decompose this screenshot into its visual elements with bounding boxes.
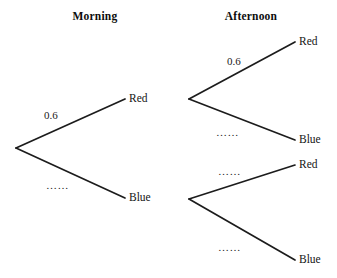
node-label-morning-red: Red: [129, 92, 148, 104]
branch-label-afternoon-red-red: 0.6: [227, 55, 241, 67]
branch-morning-red: [16, 99, 125, 148]
node-label-morning-blue: Blue: [129, 191, 151, 203]
probability-tree-figure: Morning Afternoon 0.6 …… Red Blue 0.6 ………: [0, 0, 337, 278]
branch-label-afternoon-red-blue: ……: [216, 126, 239, 138]
node-label-afternoon-red-blue: Blue: [299, 133, 321, 145]
branch-label-afternoon-blue-blue: ……: [218, 241, 241, 253]
node-label-afternoon-blue-blue: Blue: [299, 253, 321, 265]
branch-label-morning-red: 0.6: [44, 109, 58, 121]
branch-label-afternoon-blue-red: ……: [218, 165, 241, 177]
branch-label-morning-blue: ……: [46, 179, 69, 191]
node-label-afternoon-blue-red: Red: [299, 158, 318, 170]
node-label-afternoon-red-red: Red: [299, 35, 318, 47]
branch-afternoon-blue-red: [189, 165, 295, 199]
stage-header-morning: Morning: [45, 10, 145, 22]
branch-afternoon-red-red: [189, 42, 295, 99]
stage-header-afternoon: Afternoon: [201, 10, 301, 22]
branch-afternoon-red-blue: [189, 99, 295, 140]
branch-morning-blue: [16, 148, 125, 198]
branch-afternoon-blue-blue: [189, 199, 295, 260]
tree-branch-lines: [0, 0, 337, 278]
